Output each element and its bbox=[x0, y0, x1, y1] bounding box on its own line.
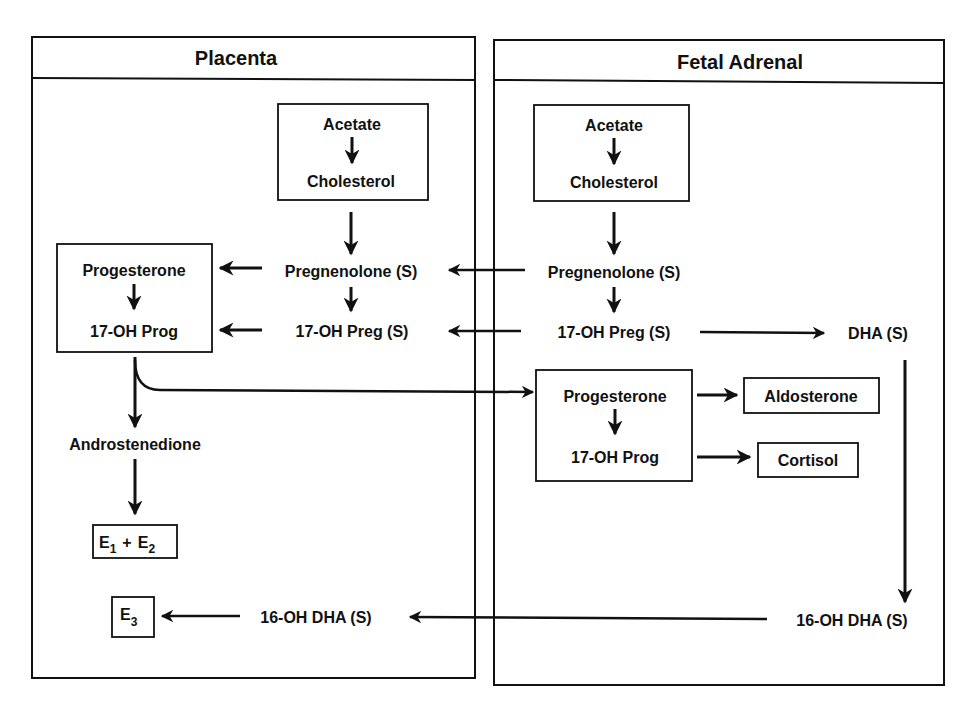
fetal-precursor-box: Acetate Cholesterol bbox=[534, 105, 689, 201]
placenta-progesterone-box: Progesterone 17-OH Prog bbox=[57, 244, 212, 352]
fetal-progesterone-box: Progesterone 17-OH Prog bbox=[536, 370, 692, 481]
placenta-16oh-dha: 16-OH DHA (S) bbox=[260, 609, 371, 626]
fetal-cholesterol: Cholesterol bbox=[570, 174, 658, 191]
e1-e2-box: E1+E2 bbox=[93, 525, 177, 558]
e3-box: E3 bbox=[112, 597, 154, 637]
placenta-pregnenolone: Pregnenolone (S) bbox=[285, 263, 417, 280]
placenta-title: Placenta bbox=[195, 47, 278, 69]
arrow-right-icon bbox=[700, 332, 824, 333]
e1-label: E bbox=[99, 534, 110, 551]
aldosterone-box: Aldosterone bbox=[744, 378, 879, 413]
cortisol-box: Cortisol bbox=[758, 443, 858, 477]
fetal-17oh-prog: 17-OH Prog bbox=[571, 449, 659, 466]
placenta-acetate: Acetate bbox=[323, 116, 381, 133]
placenta-17oh-prog: 17-OH Prog bbox=[90, 323, 178, 340]
fetal-progesterone: Progesterone bbox=[563, 388, 666, 405]
fetal-17oh-preg: 17-OH Preg (S) bbox=[558, 324, 671, 341]
fetal-dha: DHA (S) bbox=[848, 325, 908, 342]
fetal-pregnenolone: Pregnenolone (S) bbox=[548, 264, 680, 281]
placenta-androstenedione: Androstenedione bbox=[69, 436, 201, 453]
steroidogenesis-diagram: Placenta Fetal Adrenal Acetate Cholester… bbox=[0, 0, 969, 706]
cortisol-label: Cortisol bbox=[778, 452, 838, 469]
placenta-precursor-box: Acetate Cholesterol bbox=[278, 104, 428, 200]
aldosterone-label: Aldosterone bbox=[764, 388, 857, 405]
placenta-cholesterol: Cholesterol bbox=[307, 173, 395, 190]
fetal-adrenal-title: Fetal Adrenal bbox=[677, 51, 803, 73]
e3-label: E bbox=[120, 606, 131, 623]
fetal-16oh-dha: 16-OH DHA (S) bbox=[796, 612, 907, 629]
placenta-progesterone: Progesterone bbox=[82, 262, 185, 279]
placenta-17oh-preg: 17-OH Preg (S) bbox=[296, 323, 409, 340]
fetal-acetate: Acetate bbox=[585, 117, 643, 134]
